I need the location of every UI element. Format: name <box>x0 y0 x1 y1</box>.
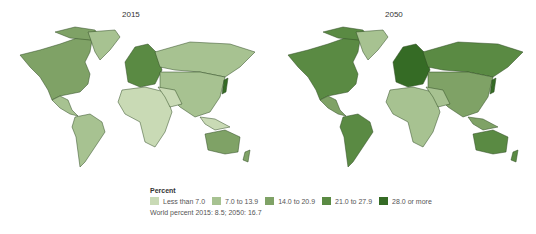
map-legend: Percent Less than 7.0 7.0 to 13.9 14.0 t… <box>150 187 435 216</box>
legend-label: 7.0 to 13.9 <box>225 198 258 205</box>
australia <box>473 130 508 154</box>
central-america <box>320 96 346 116</box>
legend-item-14-to-20-9: 14.0 to 20.9 <box>265 197 315 205</box>
legend-swatch <box>322 197 331 205</box>
world-map-2050 <box>268 22 536 182</box>
legend-swatch <box>265 197 274 205</box>
map-title-2015: 2015 <box>122 10 140 19</box>
legend-items: Less than 7.0 7.0 to 13.9 14.0 to 20.9 2… <box>150 197 435 205</box>
new-zealand <box>511 150 518 162</box>
legend-title: Percent <box>150 187 435 194</box>
north-america <box>288 37 360 100</box>
legend-item-21-to-27-9: 21.0 to 27.9 <box>322 197 372 205</box>
legend-item-28-or-more: 28.0 or more <box>379 197 432 205</box>
southeast-asia <box>468 117 498 130</box>
legend-item-7-to-13-9: 7.0 to 13.9 <box>212 197 258 205</box>
legend-label: 21.0 to 27.9 <box>335 198 372 205</box>
europe <box>125 44 162 87</box>
greenland <box>356 30 388 60</box>
legend-swatch <box>212 197 221 205</box>
legend-label: Less than 7.0 <box>163 198 205 205</box>
map-title-2050: 2050 <box>385 10 403 19</box>
southeast-asia <box>200 117 230 130</box>
greenland <box>88 30 120 60</box>
legend-label: 14.0 to 20.9 <box>278 198 315 205</box>
europe <box>393 44 430 87</box>
australia <box>205 130 240 154</box>
south-america <box>340 114 373 167</box>
north-america <box>20 37 92 100</box>
africa <box>118 87 172 147</box>
world-percent-note: World percent 2015: 8.5; 2050: 16.7 <box>150 209 435 216</box>
legend-swatch <box>379 197 388 205</box>
legend-item-less-than-7: Less than 7.0 <box>150 197 205 205</box>
south-america <box>72 114 105 167</box>
legend-swatch <box>150 197 159 205</box>
legend-label: 28.0 or more <box>392 198 432 205</box>
africa <box>386 87 440 147</box>
world-map-2015 <box>0 22 270 182</box>
new-zealand <box>243 150 250 162</box>
central-america <box>52 96 78 116</box>
